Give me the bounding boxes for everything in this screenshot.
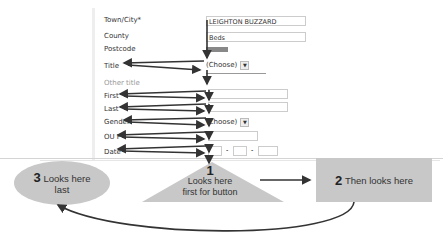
eye-path-arrows <box>0 0 443 245</box>
